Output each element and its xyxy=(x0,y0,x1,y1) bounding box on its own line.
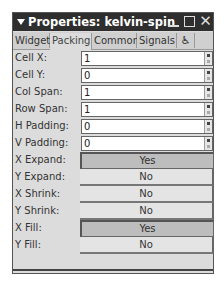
spin-up-icon[interactable] xyxy=(207,88,210,91)
col-span-label: Col Span: xyxy=(15,86,63,97)
cell-y-spin[interactable]: 0 xyxy=(81,68,213,83)
h-padding-value[interactable]: 0 xyxy=(84,121,90,132)
h-padding-label: H Padding: xyxy=(15,120,69,131)
accessibility-icon: ♿ xyxy=(181,34,191,47)
row-x-shrink: X Shrink: No xyxy=(13,186,213,203)
window-bottom-border xyxy=(13,269,213,271)
x-expand-label: X Expand: xyxy=(15,154,66,165)
cell-x-value[interactable]: 1 xyxy=(84,53,90,64)
x-expand-toggle[interactable]: Yes xyxy=(80,152,214,169)
tab-bar: Widget Packing Common Signals ♿ xyxy=(13,32,213,50)
row-cell-x: Cell X: 1 xyxy=(13,50,213,67)
tab-packing[interactable]: Packing xyxy=(50,33,92,50)
spin-up-icon[interactable] xyxy=(207,105,210,108)
spin-up-icon[interactable] xyxy=(207,54,210,57)
spin-up-icon[interactable] xyxy=(207,139,210,142)
row-span-label: Row Span: xyxy=(15,103,68,114)
v-padding-value[interactable]: 0 xyxy=(84,138,90,149)
spin-arrows[interactable] xyxy=(204,69,212,82)
y-shrink-label: Y Shrink: xyxy=(15,205,59,216)
spin-down-icon[interactable] xyxy=(207,77,210,80)
spin-arrows[interactable] xyxy=(204,120,212,133)
spin-arrows[interactable] xyxy=(204,86,212,99)
cell-x-label: Cell X: xyxy=(15,52,47,63)
row-span-spin[interactable]: 1 xyxy=(81,102,213,117)
spin-up-icon[interactable] xyxy=(207,122,210,125)
title-bar[interactable]: Properties: kelvin-spin ✕ xyxy=(13,13,213,31)
close-button[interactable]: ✕ xyxy=(199,15,212,28)
v-padding-label: V Padding: xyxy=(15,137,68,148)
row-row-span: Row Span: 1 xyxy=(13,101,213,118)
spin-down-icon[interactable] xyxy=(207,145,210,148)
cell-x-spin[interactable]: 1 xyxy=(81,51,213,66)
y-expand-label: Y Expand: xyxy=(15,171,65,182)
x-shrink-label: X Shrink: xyxy=(15,188,60,199)
col-span-spin[interactable]: 1 xyxy=(81,85,213,100)
spin-up-icon[interactable] xyxy=(207,71,210,74)
row-cell-y: Cell Y: 0 xyxy=(13,67,213,84)
spin-arrows[interactable] xyxy=(204,103,212,116)
spin-down-icon[interactable] xyxy=(207,60,210,63)
tab-signals[interactable]: Signals xyxy=(137,33,177,48)
x-shrink-toggle[interactable]: No xyxy=(80,186,214,203)
cell-y-label: Cell Y: xyxy=(15,69,45,80)
row-col-span: Col Span: 1 xyxy=(13,84,213,101)
col-span-value[interactable]: 1 xyxy=(84,87,90,98)
tab-accessibility[interactable]: ♿ xyxy=(177,33,195,48)
row-v-padding: V Padding: 0 xyxy=(13,135,213,152)
row-h-padding: H Padding: 0 xyxy=(13,118,213,135)
minimize-button[interactable] xyxy=(167,15,180,28)
h-padding-spin[interactable]: 0 xyxy=(81,119,213,134)
spin-down-icon[interactable] xyxy=(207,128,210,131)
spin-down-icon[interactable] xyxy=(207,111,210,114)
cell-y-value[interactable]: 0 xyxy=(84,70,90,81)
row-x-fill: X Fill: Yes xyxy=(13,220,213,237)
spin-arrows[interactable] xyxy=(204,52,212,65)
spin-down-icon[interactable] xyxy=(207,94,210,97)
y-fill-toggle[interactable]: No xyxy=(80,237,214,254)
x-fill-label: X Fill: xyxy=(15,222,42,233)
row-span-value[interactable]: 1 xyxy=(84,104,90,115)
row-y-shrink: Y Shrink: No xyxy=(13,203,213,220)
window-menu-icon[interactable] xyxy=(17,19,25,25)
row-x-expand: X Expand: Yes xyxy=(13,152,213,169)
window-title: Properties: kelvin-spin xyxy=(28,13,175,31)
x-fill-toggle[interactable]: Yes xyxy=(80,220,214,237)
y-shrink-toggle[interactable]: No xyxy=(80,203,214,220)
row-y-expand: Y Expand: No xyxy=(13,169,213,186)
row-y-fill: Y Fill: No xyxy=(13,237,213,254)
tab-common[interactable]: Common xyxy=(92,33,137,48)
packing-properties: Cell X: 1 Cell Y: 0 Col Span: 1 Row Span… xyxy=(13,50,213,254)
properties-window: Properties: kelvin-spin ✕ Widget Packing… xyxy=(12,12,214,274)
y-fill-label: Y Fill: xyxy=(15,239,41,250)
v-padding-spin[interactable]: 0 xyxy=(81,136,213,151)
tab-widget[interactable]: Widget xyxy=(13,33,50,48)
y-expand-toggle[interactable]: No xyxy=(80,169,214,186)
spin-arrows[interactable] xyxy=(204,137,212,150)
maximize-button[interactable] xyxy=(183,15,196,28)
